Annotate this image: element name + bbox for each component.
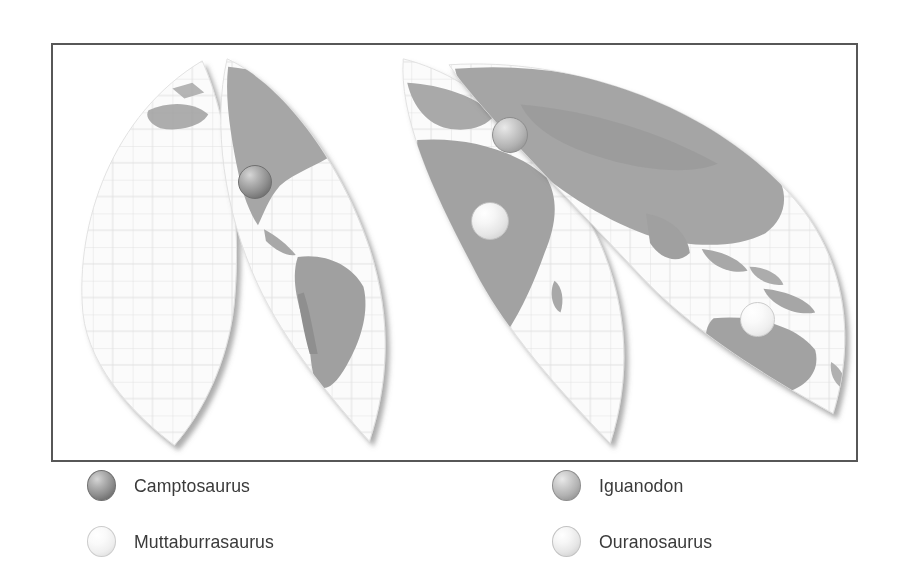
legend: Camptosaurus Muttaburrasaurus Iguanodon …: [51, 462, 907, 563]
map-lobe-americas: [221, 59, 385, 441]
map-lobe-west-americas: [82, 61, 237, 445]
map-marker-muttaburrasaurus[interactable]: [740, 302, 775, 337]
legend-item-muttaburrasaurus[interactable]: Muttaburrasaurus: [87, 526, 285, 557]
map-marker-camptosaurus[interactable]: [238, 165, 272, 199]
map-panel: [51, 43, 858, 462]
legend-marker-icon: [552, 526, 581, 557]
legend-marker-icon: [87, 526, 116, 557]
legend-item-iguanodon[interactable]: Iguanodon: [552, 470, 690, 501]
map-canvas: [53, 45, 856, 460]
legend-item-label: Muttaburrasaurus: [134, 531, 274, 553]
legend-marker-icon: [87, 470, 116, 501]
legend-item-camptosaurus[interactable]: Camptosaurus: [87, 470, 259, 501]
figure-page: Camptosaurus Muttaburrasaurus Iguanodon …: [0, 0, 907, 563]
map-marker-ouranosaurus[interactable]: [471, 202, 509, 240]
map-marker-iguanodon[interactable]: [492, 117, 528, 153]
legend-item-ouranosaurus[interactable]: Ouranosaurus: [552, 526, 721, 557]
legend-item-label: Camptosaurus: [134, 475, 250, 497]
legend-item-label: Iguanodon: [599, 475, 683, 497]
legend-marker-icon: [552, 470, 581, 501]
legend-item-label: Ouranosaurus: [599, 531, 712, 553]
world-map-graphic: [53, 45, 856, 460]
